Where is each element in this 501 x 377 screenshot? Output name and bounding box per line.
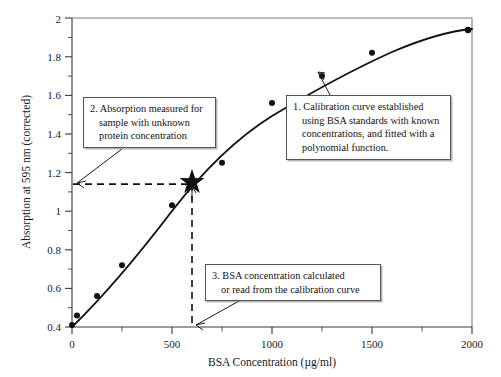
y-axis-major-ticks: [65, 18, 72, 327]
callout-1-line-0: 1. Calibration curve established: [293, 100, 444, 114]
callout-2-line-2: protein concentration: [90, 129, 209, 143]
data-point: [219, 160, 225, 166]
data-point: [119, 262, 125, 268]
y-tick-label-2: 0.8: [47, 244, 61, 256]
y-tick-label-4: 1.2: [47, 167, 61, 179]
y-axis-title: Absorption at 595 nm (corrected): [20, 95, 33, 249]
callout-2-line-0: 2. Absorption measured for: [90, 102, 209, 116]
data-point: [74, 312, 80, 318]
figure-canvas: 0.4 0.6 0.8 1 1.2 1.4 1.6 1.8 2 0 500 10…: [0, 0, 501, 377]
absorption-measured-callout[interactable]: 2. Absorption measured for sample with u…: [83, 97, 216, 148]
x-tick-label-0: 0: [69, 338, 75, 350]
calibration-chart: 0.4 0.6 0.8 1 1.2 1.4 1.6 1.8 2 0 500 10…: [0, 0, 501, 377]
data-point: [169, 202, 175, 208]
y-tick-label-8: 2: [56, 13, 62, 25]
x-tick-label-3: 1500: [361, 338, 384, 350]
y-tick-label-5: 1.4: [47, 128, 61, 140]
y-tick-label-3: 1: [56, 205, 62, 217]
data-point: [269, 100, 275, 106]
callout-3-line-1: or read from the calibration curve: [212, 283, 374, 297]
x-tick-label-1: 500: [164, 338, 181, 350]
y-tick-label-1: 0.6: [47, 282, 61, 294]
y-tick-label-7: 1.8: [47, 51, 61, 63]
callout-1-line-2: concentrations, and fitted with a: [293, 127, 444, 141]
data-point: [94, 293, 100, 299]
data-point: [69, 322, 75, 328]
data-point: [369, 50, 375, 56]
callout-1-line-1: using BSA standards with known: [293, 114, 444, 128]
data-point: [465, 27, 471, 33]
x-axis-major-ticks: [72, 327, 472, 334]
callout-2-line-1: sample with unknown: [90, 116, 209, 130]
callout-1-line-3: polynomial function.: [293, 141, 444, 155]
x-axis-title: BSA Concentration (µg/ml): [208, 356, 336, 369]
y-tick-label-6: 1.6: [47, 89, 61, 101]
x-tick-label-2: 1000: [261, 338, 284, 350]
callout-3-line-0: 3. BSA concentration calculated: [212, 269, 374, 283]
x-tick-label-4: 2000: [461, 338, 484, 350]
y-tick-label-0: 0.4: [47, 321, 61, 333]
concentration-readout-callout[interactable]: 3. BSA concentration calculated or read …: [205, 264, 381, 301]
calibration-curve-callout[interactable]: 1. Calibration curve established using B…: [286, 95, 451, 160]
